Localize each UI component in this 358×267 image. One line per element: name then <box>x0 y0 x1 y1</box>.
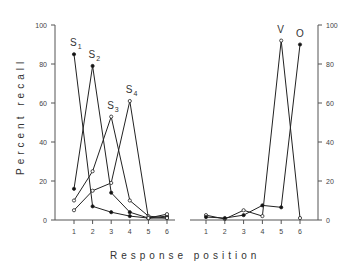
x-tick-label: 5 <box>146 228 150 235</box>
y-tick-label: 0 <box>326 217 330 224</box>
x-tick-label: 4 <box>128 228 132 235</box>
data-point-marker <box>298 43 301 46</box>
series-line-o <box>206 45 300 219</box>
series-label: S3 <box>107 100 119 113</box>
data-point-marker <box>280 39 283 42</box>
y-tick-label: 80 <box>39 61 47 68</box>
x-tick-label: 1 <box>204 228 208 235</box>
data-point-marker <box>280 206 283 209</box>
series-label: S1 <box>70 37 82 50</box>
y-tick-label: 40 <box>39 139 47 146</box>
x-tick-label: 6 <box>298 228 302 235</box>
data-point-marker <box>91 64 94 67</box>
x-axis-title: Response position <box>110 250 260 261</box>
data-point-marker <box>204 215 207 218</box>
data-point-marker <box>91 170 94 173</box>
y-tick-label: 100 <box>326 22 338 29</box>
data-point-marker <box>72 187 75 190</box>
data-point-marker <box>242 214 245 217</box>
data-point-marker <box>72 199 75 202</box>
series-line-v <box>206 41 300 219</box>
data-point-marker <box>242 209 245 212</box>
data-point-marker <box>165 213 168 216</box>
y-tick-label: 80 <box>326 61 334 68</box>
data-point-marker <box>261 204 264 207</box>
x-tick-label: 1 <box>72 228 76 235</box>
y-tick-label: 60 <box>39 100 47 107</box>
data-point-marker <box>110 115 113 118</box>
data-point-marker <box>110 181 113 184</box>
y-axis-title: Percent recall <box>15 58 26 175</box>
data-point-marker <box>298 216 301 219</box>
y-tick-label: 20 <box>326 178 334 185</box>
data-point-marker <box>147 216 150 219</box>
data-point-marker <box>165 216 168 219</box>
left-panel: 020406080100123456S1S2S3S4 <box>35 22 175 236</box>
y-tick-label: 40 <box>326 139 334 146</box>
y-tick-label: 0 <box>43 217 47 224</box>
y-tick-label: 60 <box>326 100 334 107</box>
data-point-marker <box>223 216 226 219</box>
x-tick-label: 2 <box>223 228 227 235</box>
series-label: S4 <box>126 84 138 97</box>
data-point-marker <box>72 209 75 212</box>
data-point-marker <box>110 191 113 194</box>
y-tick-label: 100 <box>35 22 47 29</box>
recall-chart-figure: 020406080100123456S1S2S3S4 0204060801001… <box>0 0 358 267</box>
data-point-marker <box>128 215 131 218</box>
data-point-marker <box>261 215 264 218</box>
data-point-marker <box>128 199 131 202</box>
data-point-marker <box>110 211 113 214</box>
series-label: V <box>277 24 284 35</box>
series-label: S2 <box>89 49 101 62</box>
series-label: O <box>296 28 304 39</box>
x-tick-label: 4 <box>260 228 264 235</box>
x-tick-label: 6 <box>165 228 169 235</box>
series-line-s1 <box>74 54 167 218</box>
data-point-marker <box>128 99 131 102</box>
data-point-marker <box>91 189 94 192</box>
x-tick-label: 3 <box>242 228 246 235</box>
x-tick-label: 2 <box>91 228 95 235</box>
data-point-marker <box>91 205 94 208</box>
x-tick-label: 5 <box>279 228 283 235</box>
data-point-marker <box>128 211 131 214</box>
x-tick-label: 3 <box>109 228 113 235</box>
y-tick-label: 20 <box>39 178 47 185</box>
right-panel: 020406080100123456VO <box>190 22 338 236</box>
data-point-marker <box>72 53 75 56</box>
